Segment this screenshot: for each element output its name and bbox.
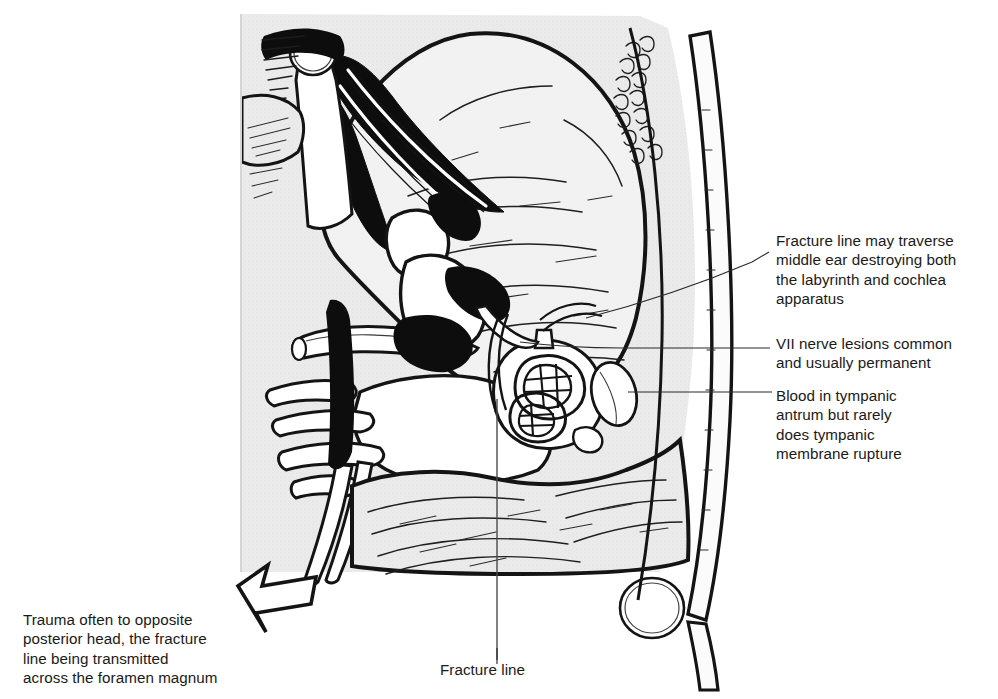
label-fracture-traverse: Fracture line may traverse middle ear de… — [776, 231, 991, 309]
vertebral-artery-inner — [625, 583, 679, 633]
nerve-tube-1-end — [292, 338, 306, 360]
figure-canvas: Fracture line may traverse middle ear de… — [0, 0, 998, 699]
label-blood-tympanic: Blood in tympanic antrum but rarely does… — [776, 386, 986, 464]
ossicle-malleus — [573, 427, 602, 452]
label-vii-nerve: VII nerve lesions common and usually per… — [776, 334, 991, 373]
label-trauma-opposite: Trauma often to opposite posterior head,… — [23, 610, 278, 688]
skull-outer-table — [688, 32, 732, 620]
sigmoid-sinus-channel — [326, 300, 354, 470]
skull-lower-segment — [688, 622, 718, 690]
label-fracture-line: Fracture line — [440, 660, 590, 679]
petrous-bone-shelf — [242, 95, 304, 165]
